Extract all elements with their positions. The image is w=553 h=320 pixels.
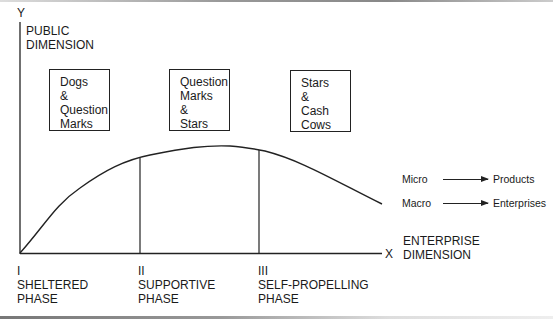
phase-1-name: SHELTERED bbox=[17, 278, 88, 292]
phase-3-suffix: PHASE bbox=[258, 292, 299, 306]
box-3-line-4: Cows bbox=[301, 118, 350, 132]
phase-2-name: SUPPORTIVE bbox=[138, 278, 215, 292]
legend-micro: Micro Products bbox=[402, 173, 534, 185]
box-1-line-3: Question bbox=[60, 103, 109, 117]
box-3-line-2: & bbox=[301, 90, 350, 104]
life-cycle-curve bbox=[20, 146, 382, 253]
y-axis-label-line2: DIMENSION bbox=[26, 38, 94, 52]
box-3-line-3: Cash bbox=[301, 104, 350, 118]
bottom-border bbox=[0, 316, 553, 319]
x-axis-letter: X bbox=[385, 247, 393, 261]
arrow-right-icon bbox=[443, 203, 488, 204]
legend-products-label: Products bbox=[493, 173, 534, 185]
quadrant-box-2: Question Marks & Stars bbox=[169, 69, 230, 131]
box-2-line-3: & bbox=[180, 103, 229, 117]
phase-3-numeral: III bbox=[258, 264, 268, 278]
x-axis-label-line2: DIMENSION bbox=[403, 248, 471, 262]
legend-micro-label: Micro bbox=[402, 173, 437, 185]
legend-enterprises-label: Enterprises bbox=[493, 197, 546, 209]
phase-1-numeral: I bbox=[17, 264, 20, 278]
box-2-line-2: Marks bbox=[180, 89, 229, 103]
phase-2-suffix: PHASE bbox=[138, 292, 179, 306]
box-3-line-1: Stars bbox=[301, 76, 350, 90]
phase-2-numeral: II bbox=[138, 264, 145, 278]
phase-3-name: SELF-PROPELLING bbox=[258, 278, 369, 292]
box-1-line-4: Marks bbox=[60, 117, 109, 131]
box-1-line-2: & bbox=[60, 89, 109, 103]
legend-macro-label: Macro bbox=[402, 197, 437, 209]
box-2-line-4: Stars bbox=[180, 117, 229, 131]
quadrant-box-3: Stars & Cash Cows bbox=[290, 70, 351, 132]
y-axis-label-line1: PUBLIC bbox=[26, 24, 69, 38]
arrow-right-icon bbox=[443, 179, 488, 180]
x-axis-label-line1: ENTERPRISE bbox=[403, 234, 480, 248]
legend-macro: Macro Enterprises bbox=[402, 197, 546, 209]
quadrant-box-1: Dogs & Question Marks bbox=[49, 69, 110, 131]
box-2-line-1: Question bbox=[180, 75, 229, 89]
phase-1-suffix: PHASE bbox=[17, 292, 58, 306]
box-1-line-1: Dogs bbox=[60, 75, 109, 89]
y-axis-letter: Y bbox=[17, 6, 25, 20]
